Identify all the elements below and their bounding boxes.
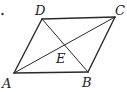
label-d: D bbox=[34, 3, 46, 18]
label-a: A bbox=[1, 76, 11, 91]
segment-cd bbox=[42, 17, 115, 19]
parallelogram-diagram: D C A B E bbox=[0, 0, 127, 92]
segment-bc bbox=[88, 17, 115, 72]
label-e: E bbox=[55, 51, 66, 66]
segment-ab bbox=[14, 72, 88, 73]
label-c: C bbox=[115, 3, 125, 18]
marker-dot bbox=[1, 13, 3, 15]
label-b: B bbox=[81, 75, 92, 90]
